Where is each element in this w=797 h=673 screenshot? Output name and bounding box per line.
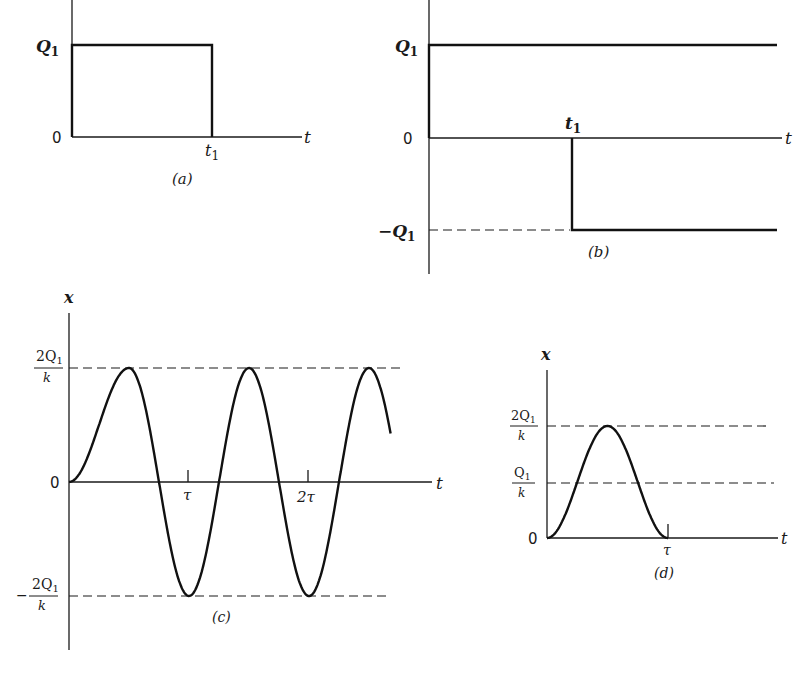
panel-d: x 2Q1 k Q1 k 0 τ t (d) — [510, 345, 788, 581]
positive-step — [429, 45, 777, 138]
t-axis-label: t — [785, 128, 792, 148]
q1-label: Q1 — [395, 36, 418, 59]
svg-text:2Q1: 2Q1 — [36, 348, 63, 366]
x-axis-label: x — [540, 345, 551, 364]
svg-text:−: − — [16, 587, 28, 603]
zero-label: 0 — [403, 130, 413, 148]
x-axis-label: x — [63, 288, 74, 307]
tau-label: τ — [183, 486, 192, 504]
zero-label: 0 — [52, 129, 62, 147]
panel-c: x 2Q1 k 0 − 2Q1 k τ 2τ t (c) — [16, 288, 443, 650]
caption-c: (c) — [212, 609, 231, 625]
t-axis-label: t — [304, 127, 311, 147]
q1-label: Q1 — [36, 36, 59, 59]
svg-text:k: k — [43, 370, 51, 385]
mid-level-label: Q1 k — [512, 465, 535, 500]
response-curve — [547, 426, 668, 538]
svg-text:k: k — [518, 429, 525, 443]
upper-level-label: 2Q1 k — [510, 408, 538, 443]
svg-text:k: k — [518, 486, 525, 500]
panel-a: Q1 0 t t1 (a) — [36, 0, 311, 188]
caption-d: (d) — [654, 565, 674, 581]
t-axis-label: t — [436, 473, 443, 493]
figure: Q1 0 t t1 (a) Q1 0 −Q1 t t1 (b) x 2Q1 k … — [0, 0, 797, 673]
pulse-signal — [72, 45, 212, 137]
svg-text:2Q1: 2Q1 — [32, 576, 59, 594]
negative-step — [572, 138, 777, 230]
svg-text:k: k — [38, 598, 46, 613]
zero-label: 0 — [50, 474, 60, 492]
t1-label: t1 — [205, 141, 219, 163]
upper-bound-label: 2Q1 k — [34, 348, 63, 385]
panel-b: Q1 0 −Q1 t t1 (b) — [378, 0, 792, 274]
svg-text:2Q1: 2Q1 — [511, 408, 536, 425]
caption-a: (a) — [172, 170, 193, 188]
zero-label: 0 — [528, 530, 538, 548]
t1-label: t1 — [565, 113, 581, 136]
t-axis-label: t — [781, 529, 788, 548]
caption-b: (b) — [588, 243, 609, 261]
tau-label: τ — [663, 542, 671, 558]
svg-text:Q1: Q1 — [514, 465, 530, 482]
2tau-label: 2τ — [296, 488, 316, 506]
lower-bound-label: − 2Q1 k — [16, 576, 59, 613]
neg-q1-label: −Q1 — [378, 221, 415, 244]
